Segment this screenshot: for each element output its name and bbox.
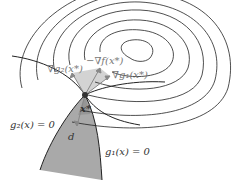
label-neg-grad-f: −∇f(x*) <box>86 55 124 66</box>
optimum-point <box>82 92 88 98</box>
label-grad-g2: ∇g₂(x*) <box>47 63 83 74</box>
kkt-diagram: ∇g₂(x*) −∇f(x*) ∇g₁(x*) x* d g₂(x) = 0 g… <box>0 0 233 191</box>
label-direction: d <box>68 131 74 142</box>
label-constraint-g2: g₂(x) = 0 <box>10 119 56 130</box>
label-constraint-g1: g₁(x) = 0 <box>105 146 151 157</box>
label-point: x* <box>79 103 92 114</box>
label-grad-g1: ∇g₁(x*) <box>112 69 148 80</box>
